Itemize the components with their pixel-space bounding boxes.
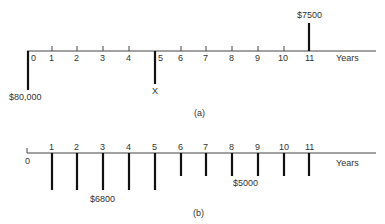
flow-label-x: X <box>152 86 158 96</box>
tick-label-11: 11 <box>305 53 314 63</box>
tick-label-7-b: 7 <box>203 142 208 152</box>
tick-label-2: 2 <box>74 53 79 63</box>
tick-label-6: 6 <box>178 53 183 63</box>
tick-label-7: 7 <box>203 53 208 63</box>
caption-b: (b) <box>193 208 204 218</box>
tick-label-5: 5 <box>158 53 163 63</box>
diagram-b: 0 1 2 3 4 5 6 7 8 9 10 11 Years $6800 $5… <box>25 142 376 218</box>
tick-label-9-b: 9 <box>255 142 260 152</box>
caption-a: (a) <box>194 108 205 118</box>
tick-label-5-b: 5 <box>152 142 157 152</box>
tick-label-9: 9 <box>255 53 260 63</box>
tick-label-10: 10 <box>278 53 288 63</box>
tick-label-0: 0 <box>31 53 36 63</box>
diagram-a: 0 1 2 3 4 5 6 7 8 9 10 11 Years $80,000 … <box>9 10 376 118</box>
axis-label-years-a: Years <box>336 53 359 63</box>
tick-label-8: 8 <box>229 53 234 63</box>
flow-label-6800: $6800 <box>90 194 115 204</box>
flow-label-7500: $7500 <box>297 10 322 20</box>
tick-label-2-b: 2 <box>74 142 79 152</box>
axis-ticks-a <box>52 46 284 51</box>
tick-label-3: 3 <box>100 53 105 63</box>
flow-arrows-b <box>52 153 309 190</box>
tick-label-4-b: 4 <box>126 142 131 152</box>
axis-label-years-b: Years <box>336 158 359 168</box>
tick-label-10-b: 10 <box>279 142 289 152</box>
tick-label-1: 1 <box>49 53 54 63</box>
flow-label-80000: $80,000 <box>9 92 42 102</box>
tick-label-11-b: 11 <box>305 142 314 152</box>
tick-label-8-b: 8 <box>229 142 234 152</box>
tick-label-0-b: 0 <box>25 156 30 166</box>
tick-label-3-b: 3 <box>100 142 105 152</box>
tick-label-6-b: 6 <box>178 142 183 152</box>
cash-flow-diagrams: 0 1 2 3 4 5 6 7 8 9 10 11 Years $80,000 … <box>0 0 385 224</box>
flow-label-5000: $5000 <box>233 178 258 188</box>
tick-label-1-b: 1 <box>49 142 54 152</box>
tick-label-4: 4 <box>126 53 131 63</box>
